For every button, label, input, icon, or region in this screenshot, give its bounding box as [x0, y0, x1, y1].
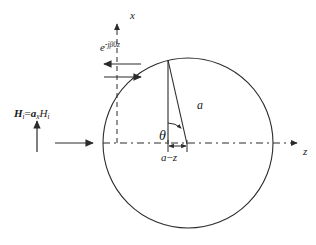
h-field-symbol: H — [14, 107, 23, 119]
exponential-wave-label: e-jβ0z — [100, 42, 120, 53]
a-minus-z-label: a−z — [161, 152, 177, 163]
unit-vector-subscript: x — [36, 113, 39, 121]
dimension-z-term: z — [173, 151, 177, 163]
diagram-canvas — [0, 0, 316, 245]
theta-label: θ — [159, 129, 166, 143]
z-axis-label: z — [303, 146, 307, 157]
exponential-exponent: -jβ0z — [105, 40, 120, 49]
theta-angle-arc — [168, 123, 181, 128]
figure-container: x z e-jβ0z Hi=axHi a θ a−z — [0, 0, 316, 245]
radius-line — [168, 60, 187, 144]
x-axis-label: x — [130, 10, 135, 21]
radius-label: a — [197, 99, 203, 111]
h-field-subscript: i — [23, 113, 25, 121]
incident-field-label: Hi=axHi — [14, 108, 49, 119]
